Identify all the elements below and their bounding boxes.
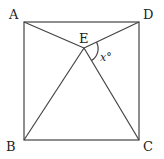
segment-ae bbox=[24, 22, 84, 48]
angle-arc-x bbox=[92, 42, 99, 60]
label-a: A bbox=[8, 7, 19, 22]
geometry-diagram: A D E B C x° bbox=[0, 0, 164, 159]
segment-de bbox=[84, 22, 139, 48]
label-c: C bbox=[143, 139, 153, 154]
label-b: B bbox=[6, 139, 16, 154]
segment-be bbox=[24, 48, 84, 140]
label-d: D bbox=[143, 7, 153, 22]
angle-label-x: x° bbox=[100, 51, 112, 64]
label-e: E bbox=[79, 31, 89, 46]
